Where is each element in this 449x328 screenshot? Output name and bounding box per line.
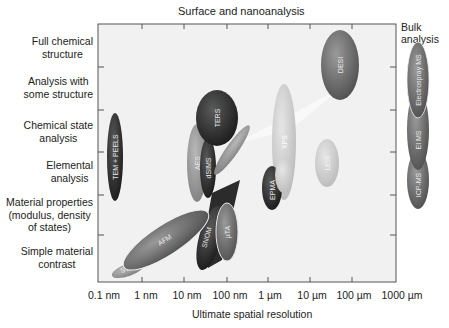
desi-label: DESI	[337, 57, 344, 73]
technique-tem-peels: TEM + PEELS	[107, 113, 123, 201]
icp-ms-label: ICP-MS	[415, 172, 422, 197]
technique-uta: µTA	[216, 203, 238, 261]
xps-overlap-shape	[275, 157, 293, 193]
technique-ters: TERS	[196, 90, 238, 146]
epma-label: EPMA	[269, 180, 276, 200]
aes-label: AES	[194, 156, 201, 170]
ters-label: TERS	[214, 108, 221, 127]
xps-label: XPS	[281, 135, 288, 149]
plot-area: TEM + PEELS AES dSIMS TERS XPS EPMA LEIS…	[0, 0, 449, 328]
technique-electrospray-ms: Electrospray MS	[407, 42, 429, 118]
electrospray-ms-label: Electrospray MS	[415, 54, 423, 106]
uta-label: µTA	[224, 225, 232, 238]
leis-label: LEIS	[324, 155, 331, 171]
technique-leis: LEIS	[315, 139, 339, 187]
tem-peels-label: TEM + PEELS	[112, 134, 119, 180]
ei-ms-label: EI MS	[415, 130, 422, 149]
technique-dsims: dSIMS	[200, 138, 216, 198]
dsims-label: dSIMS	[205, 157, 212, 178]
technique-desi: DESI	[321, 30, 359, 100]
